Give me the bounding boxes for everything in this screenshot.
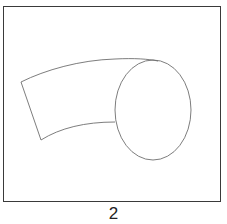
figure-caption: 2 bbox=[0, 204, 227, 224]
tube-top-edge bbox=[21, 59, 158, 82]
curved-cylinder-drawing bbox=[0, 0, 227, 224]
tube-left-edge bbox=[21, 82, 41, 140]
tube-bottom-edge bbox=[41, 122, 115, 140]
tube-end-ellipse bbox=[115, 60, 191, 160]
